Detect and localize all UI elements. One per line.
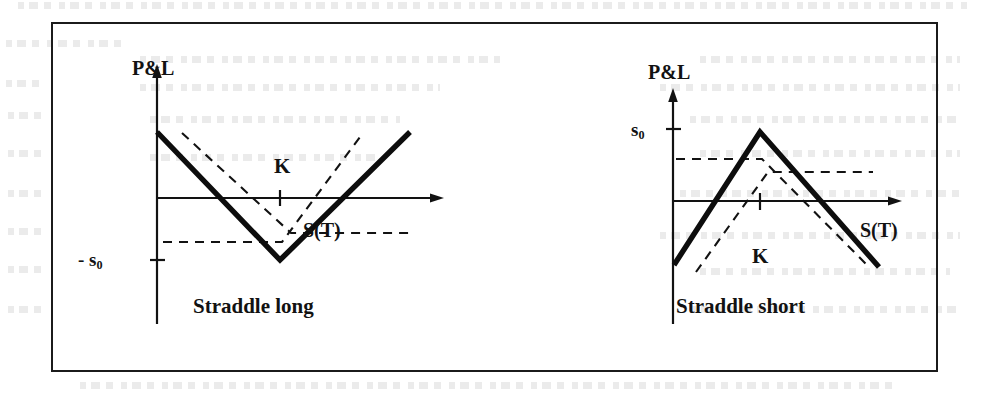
y-axis-label-short: P&L [648,62,690,82]
y-axis-short [668,88,678,324]
straddle-long-plot [53,24,496,374]
figure-frame-border: P&L S(T) - s0 K Straddle long [51,22,938,372]
panel-straddle-long: P&L S(T) - s0 K Straddle long [53,24,496,374]
x-axis-long [157,193,444,202]
long-put-dashed-line [182,133,411,233]
page-canvas: P&L S(T) - s0 K Straddle long [0,0,985,398]
x-axis-label-long: S(T) [303,220,341,240]
y-tick-label-long-subscript: 0 [96,258,102,272]
y-tick-label-short-subscript: 0 [638,128,644,142]
strike-label-long: K [274,156,290,177]
caption-straddle-short: Straddle short [676,296,805,317]
x-axis-short [673,196,902,205]
y-tick-label-long: - s0 [78,250,103,271]
caption-straddle-long: Straddle long [193,296,314,317]
y-axis-long [152,64,162,324]
x-axis-label-short: S(T) [860,220,898,240]
panel-straddle-short: P&L S(T) s0 K Straddle short [496,24,939,374]
y-tick-label-long-text: - s [78,249,96,270]
strike-label-short: K [752,246,768,267]
y-axis-label-long: P&L [132,58,174,78]
y-tick-label-short: s0 [631,120,644,141]
straddle-short-plot [496,24,940,374]
